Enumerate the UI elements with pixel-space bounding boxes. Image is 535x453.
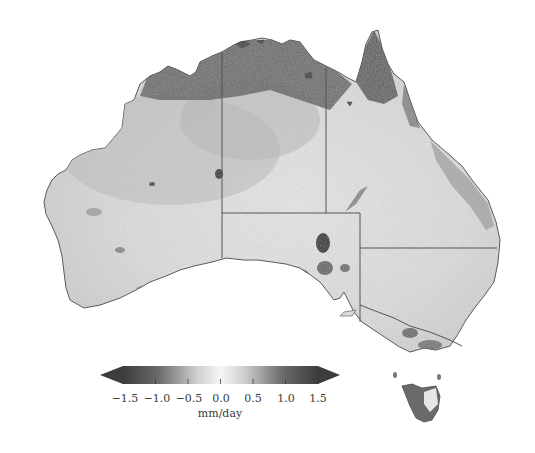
tick-label: 1.0 xyxy=(277,392,295,405)
tick-label: 1.5 xyxy=(309,392,327,405)
colorbar-extend-high xyxy=(318,366,340,384)
colorbar-extend-low xyxy=(100,366,123,384)
colorbar xyxy=(100,366,340,384)
tick-label: −1.5 xyxy=(112,392,139,405)
tick-label: −0.5 xyxy=(176,392,203,405)
australia-map xyxy=(0,0,535,453)
colorbar-unit-label: mm/day xyxy=(198,407,242,420)
tick-label: 0.5 xyxy=(244,392,262,405)
tick-label: 0.0 xyxy=(212,392,230,405)
tasmania xyxy=(393,372,441,422)
mainland xyxy=(40,25,510,365)
tick-label: −1.0 xyxy=(144,392,171,405)
